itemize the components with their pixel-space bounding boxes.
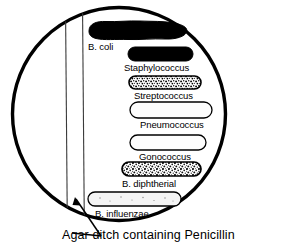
streak-streptococcus [129, 76, 201, 89]
streak-label-streptococcus: Streptococcus [134, 91, 193, 101]
figure-caption: Agar ditch containing Penicillin [62, 228, 235, 242]
streak-b-influenzae [88, 192, 181, 206]
streak-label-pneumococcus: Pneumococcus [140, 120, 204, 130]
streak-label-b-diphtherial: B. diphtherial [122, 179, 176, 189]
agar-ditch-figure: B. coli Staphylococcus Streptococcus Pne… [0, 0, 290, 249]
streak-b-diphtherial [122, 162, 201, 176]
streak-label-gonococcus: Gonococcus [139, 152, 191, 162]
streak-gonococcus [130, 135, 206, 150]
streak-staphylococcus [128, 47, 193, 61]
streak-b-coli [89, 21, 187, 40]
streak-label-staphylococcus: Staphylococcus [124, 63, 189, 73]
streak-label-b-influenzae: B. influenzae [95, 209, 149, 219]
streak-pneumococcus [130, 102, 212, 118]
streak-label-b-coli: B. coli [88, 42, 113, 52]
